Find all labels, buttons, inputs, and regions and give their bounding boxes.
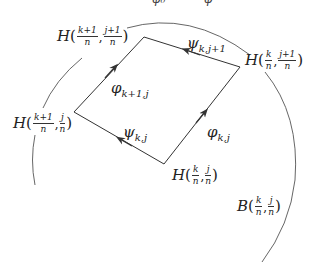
vertex-fn: H — [172, 166, 185, 184]
vertex-fn: H — [245, 51, 258, 69]
frac-num: j+1 — [278, 50, 296, 61]
frac-num: j — [268, 196, 274, 207]
frac-num: j — [60, 113, 66, 124]
edge-symbol: φ — [111, 79, 122, 97]
frac-den: n — [60, 124, 66, 134]
edge-symbol: φ — [207, 123, 218, 141]
edge-subscript: k,j — [218, 132, 230, 143]
vertex-label-bottom: H(kn,jn) — [172, 165, 218, 186]
edge-label-bottom: ψk,j — [123, 124, 147, 143]
diagram-canvas — [0, 0, 315, 274]
edge-subscript: k,j+1 — [199, 43, 226, 54]
vertex-label-top-right: H(kn,j+1n) — [245, 50, 303, 71]
top-cut-text-left: φ₀ — [152, 0, 165, 6]
frac-den: n — [77, 37, 98, 47]
frac-den: n — [205, 176, 211, 186]
frac-den: n — [104, 37, 122, 47]
arrow-right — [196, 112, 205, 123]
frac-den: n — [265, 61, 272, 71]
frac-num: k+1 — [77, 26, 98, 37]
ball-arc-left — [33, 135, 36, 185]
frac-den: n — [192, 176, 199, 186]
frac-den: n — [255, 207, 262, 217]
vertex-fn: H — [57, 27, 70, 45]
frac-num: j+1 — [104, 26, 122, 37]
edge-symbol: ψ — [187, 34, 199, 52]
ball-label: B(kn,jn) — [237, 196, 281, 217]
vertex-label-top-left: H(k+1n,j+1n) — [57, 26, 128, 47]
frac-den: n — [278, 61, 296, 71]
frac-num: k — [192, 165, 199, 176]
top-cut-text-right: φ — [204, 0, 212, 6]
edge-label-top: ψk,j+1 — [187, 35, 226, 54]
edge-subscript: k+1,j — [122, 88, 149, 99]
arrow-upper-left — [105, 67, 115, 78]
frac-num: k — [265, 50, 272, 61]
frac-num: k+1 — [33, 113, 54, 124]
ball-arc-upper-left — [43, 58, 82, 108]
frac-num: j — [205, 165, 211, 176]
edge-subscript: k,j — [135, 132, 147, 143]
vertex-label-left: H(k+1n,jn) — [13, 113, 72, 134]
frac-den: n — [268, 207, 274, 217]
edge-label-upper-left: φk+1,j — [111, 80, 149, 99]
ball-fn: B — [237, 197, 248, 215]
vertex-fn: H — [13, 114, 26, 132]
frac-num: k — [255, 196, 262, 207]
ball-arc-right — [262, 72, 296, 262]
edge-label-right: φk,j — [207, 124, 230, 143]
frac-den: n — [33, 124, 54, 134]
edge-bottom — [74, 112, 164, 164]
edge-symbol: ψ — [123, 123, 135, 141]
